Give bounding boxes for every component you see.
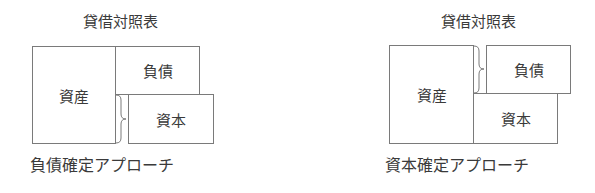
diagram-caption: 負債確定アプローチ <box>30 152 220 176</box>
equity-box: 資本 <box>473 93 558 144</box>
diagram-title: 貸借対照表 <box>60 10 180 31</box>
equity-box: 資本 <box>128 94 214 144</box>
curly-brace-icon <box>473 45 486 94</box>
diagram-caption: 資本確定アプローチ <box>385 152 575 176</box>
liabilities-box: 負債 <box>115 46 200 95</box>
curly-brace-icon <box>115 94 128 144</box>
assets-box: 資産 <box>389 45 474 144</box>
assets-box: 資産 <box>32 46 116 144</box>
liabilities-box: 負債 <box>486 45 571 94</box>
diagram-title: 貸借対照表 <box>418 10 538 31</box>
